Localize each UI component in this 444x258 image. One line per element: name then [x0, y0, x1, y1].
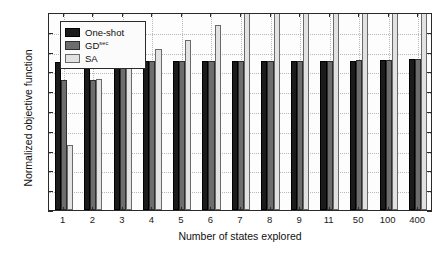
y-axis-tick-right	[427, 72, 432, 73]
x-axis-tick-top	[329, 13, 330, 17]
y-axis-tick-right	[427, 112, 432, 113]
x-axis-tick-label: 6	[208, 214, 213, 225]
x-axis-tick-top	[417, 13, 418, 17]
y-axis-tick-right	[427, 33, 432, 34]
x-axis-tick-top	[63, 13, 64, 17]
bar-sa-50	[362, 14, 368, 210]
x-axis-tick	[388, 207, 389, 211]
bar-sa-8	[274, 14, 280, 210]
y-axis-title: Normalized objective function	[22, 28, 34, 208]
y-axis-tick	[48, 53, 53, 54]
bar-sa-1	[67, 145, 73, 210]
x-axis-tick	[151, 207, 152, 211]
bar-sa-100	[392, 14, 398, 210]
y-axis-tick-right	[427, 152, 432, 153]
y-axis-tick-right	[427, 13, 432, 14]
y-axis-tick	[48, 13, 53, 14]
x-axis-tick-top	[388, 13, 389, 17]
x-axis-tick-label: 11	[324, 214, 334, 225]
legend-label-one-shot: One-shot	[85, 27, 124, 38]
legend-item-one-shot: One-shot	[65, 26, 141, 38]
y-axis-tick-right	[427, 171, 432, 172]
x-axis-tick	[92, 207, 93, 211]
legend-swatch-gd	[65, 41, 80, 50]
x-axis-tick	[210, 207, 211, 211]
x-axis-tick-top	[240, 13, 241, 17]
x-axis-title: Number of states explored	[48, 230, 432, 242]
x-axis-tick	[63, 207, 64, 211]
y-axis-tick	[48, 92, 53, 93]
y-axis-tick-right	[427, 53, 432, 54]
x-axis-tick	[299, 207, 300, 211]
x-axis-tick-label: 400	[409, 214, 425, 225]
x-axis-tick-label: 4	[149, 214, 154, 225]
legend-label-gd-superscript: sec	[99, 40, 108, 46]
x-axis-tick-top	[181, 13, 182, 17]
bar-sa-9	[303, 14, 309, 210]
x-axis-tick-top	[210, 13, 211, 17]
x-axis-tick-label: 50	[353, 214, 364, 225]
y-axis-tick	[48, 112, 53, 113]
y-axis-tick-right	[427, 132, 432, 133]
legend-label-gd-base: GD	[85, 41, 99, 52]
x-axis-tick-top	[151, 13, 152, 17]
x-axis-tick	[270, 207, 271, 211]
bar-sa-6	[215, 25, 221, 210]
x-axis-tick-label: 2	[90, 214, 95, 225]
x-axis-tick-label: 100	[380, 214, 396, 225]
y-axis-tick	[48, 33, 53, 34]
y-axis-tick-right	[427, 211, 432, 212]
y-axis-tick-right	[427, 191, 432, 192]
x-axis-tick	[240, 207, 241, 211]
y-axis-tick	[48, 152, 53, 153]
x-axis-tick	[329, 207, 330, 211]
x-axis-tick-label: 7	[237, 214, 242, 225]
y-axis-tick	[48, 72, 53, 73]
figure-canvas: Normalized objective function Number of …	[0, 0, 444, 258]
x-axis-tick	[122, 207, 123, 211]
bar-sa-4	[155, 49, 161, 210]
legend-item-sa: SA	[65, 52, 141, 64]
x-axis-tick-label: 5	[178, 214, 183, 225]
legend-item-gd: GDsec	[65, 39, 141, 51]
y-axis-tick	[48, 171, 53, 172]
x-axis-tick-label: 9	[296, 214, 301, 225]
bar-sa-3	[126, 50, 132, 210]
x-axis-tick-top	[358, 13, 359, 17]
legend-label-sa: SA	[85, 53, 98, 64]
bar-sa-11	[333, 14, 339, 210]
x-axis-tick-label: 8	[267, 214, 272, 225]
bar-sa-5	[185, 40, 191, 210]
bar-sa-7	[244, 14, 250, 210]
x-axis-tick-top	[122, 13, 123, 17]
x-axis-tick	[417, 207, 418, 211]
y-axis-tick	[48, 211, 53, 212]
x-axis-tick	[181, 207, 182, 211]
x-axis-tick-label: 3	[119, 214, 124, 225]
x-axis-tick-top	[92, 13, 93, 17]
x-axis-tick-top	[270, 13, 271, 17]
chart-legend: One-shot GDsec SA	[60, 21, 146, 69]
x-axis-tick	[358, 207, 359, 211]
y-axis-tick	[48, 132, 53, 133]
legend-label-gd: GDsec	[85, 38, 108, 51]
bar-sa-2	[96, 79, 102, 210]
y-axis-tick-right	[427, 92, 432, 93]
x-axis-tick-label: 1	[60, 214, 65, 225]
x-axis-tick-top	[299, 13, 300, 17]
y-axis-tick	[48, 191, 53, 192]
legend-swatch-sa	[65, 54, 80, 63]
legend-swatch-one-shot	[65, 28, 80, 37]
